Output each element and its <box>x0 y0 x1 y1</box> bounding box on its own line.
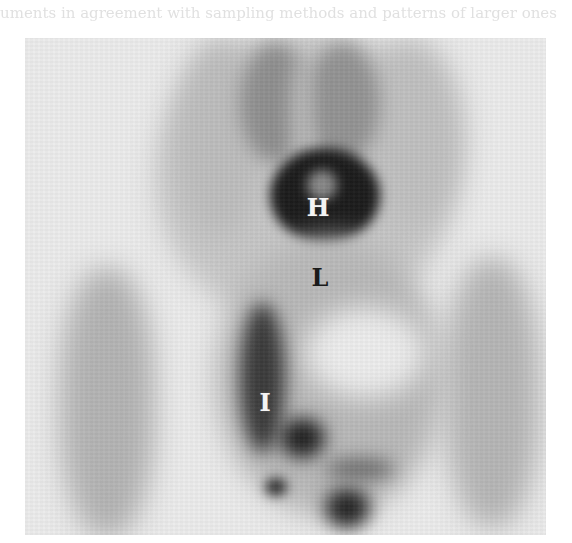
label-heart: H <box>307 196 330 220</box>
intestine-lower-blob <box>280 418 325 458</box>
bleed-through-text: uments in agreement with sampling method… <box>0 4 572 24</box>
label-intestine: I <box>259 391 270 415</box>
left-arm <box>60 268 155 535</box>
label-liver: L <box>312 266 329 290</box>
right-arm <box>445 258 540 528</box>
intestine-small-spot <box>265 478 287 496</box>
intestine-right-strip <box>325 458 395 480</box>
scan-image <box>25 38 546 535</box>
liver-light-area <box>305 308 425 398</box>
chest-right-patch <box>305 43 380 163</box>
intestine-bottom-blob <box>325 488 370 528</box>
intestine-left-column <box>240 303 285 453</box>
